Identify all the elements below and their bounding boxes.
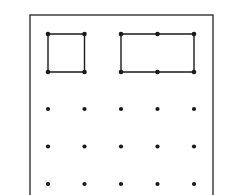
rectangle-shape <box>121 34 194 72</box>
grid-dot <box>82 32 87 37</box>
grid-dot <box>46 32 51 37</box>
grid-dot <box>155 32 160 37</box>
grid-dot <box>46 107 50 111</box>
grid-dot <box>192 182 196 186</box>
grid-dot <box>192 70 197 75</box>
grid-dot <box>192 144 196 148</box>
grid-dot <box>46 70 51 75</box>
grid-dot <box>155 107 159 111</box>
grid-dot <box>119 107 123 111</box>
grid-dot <box>82 70 87 75</box>
grid-dot <box>46 182 50 186</box>
shapes-layer <box>48 34 194 72</box>
grid-dot <box>192 32 197 37</box>
grid-dot <box>46 144 50 148</box>
grid-dot <box>119 70 124 75</box>
grid-dot <box>155 70 160 75</box>
grid-dot <box>82 107 86 111</box>
dot-grid-diagram <box>0 0 228 195</box>
grid-dot <box>119 32 124 37</box>
grid-dot <box>155 144 159 148</box>
grid-dot <box>82 182 86 186</box>
grid-dot <box>192 107 196 111</box>
grid-dot <box>119 144 123 148</box>
grid-dot <box>155 182 159 186</box>
grid-dot <box>82 144 86 148</box>
grid-dot <box>119 182 123 186</box>
square-shape <box>48 34 85 72</box>
